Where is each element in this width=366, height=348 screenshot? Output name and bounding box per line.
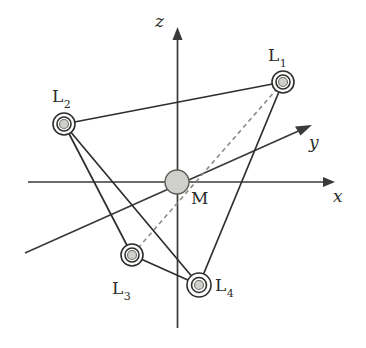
edge-L1-L4 bbox=[199, 82, 283, 285]
edge-L1-M-L3 bbox=[132, 82, 283, 255]
nodes-group bbox=[53, 71, 294, 297]
node-L1[interactable] bbox=[272, 71, 294, 93]
node-label-L1-subscript: 1 bbox=[280, 57, 287, 70]
node-M[interactable] bbox=[165, 170, 189, 194]
node-label-L4-base: L bbox=[215, 275, 226, 295]
node-L1-core bbox=[279, 78, 288, 87]
axis-label-z: z bbox=[155, 13, 164, 30]
node-label-L3-subscript: 3 bbox=[124, 290, 131, 303]
node-L2[interactable] bbox=[53, 113, 75, 135]
edge-L1-L2 bbox=[64, 82, 283, 124]
node-L4[interactable] bbox=[187, 273, 211, 297]
node-L3[interactable] bbox=[121, 244, 143, 266]
axis-label-x: x bbox=[333, 188, 343, 205]
node-L3-core bbox=[128, 251, 137, 260]
node-label-L4-subscript: 4 bbox=[227, 287, 234, 300]
node-label-L3: L3 bbox=[112, 280, 130, 300]
node-label-L1: L1 bbox=[268, 47, 286, 67]
node-L4-core bbox=[195, 281, 204, 290]
axis-label-y: y bbox=[309, 134, 319, 151]
axis-y-line bbox=[25, 129, 303, 253]
node-label-L2-subscript: 2 bbox=[64, 98, 71, 111]
node-label-L4: L4 bbox=[215, 277, 233, 297]
node-label-L3-base: L bbox=[112, 278, 123, 298]
diagram-canvas bbox=[0, 0, 366, 348]
edge-L2-L3 bbox=[64, 124, 132, 255]
node-label-M: M bbox=[191, 190, 208, 207]
physics-diagram-figure: L1 L2 L3 L4 M z x y bbox=[0, 0, 366, 348]
node-label-L2-base: L bbox=[52, 86, 63, 106]
node-M-core bbox=[165, 170, 189, 194]
node-label-L2: L2 bbox=[52, 88, 70, 108]
node-L2-core bbox=[60, 120, 69, 129]
node-label-L1-base: L bbox=[268, 45, 279, 65]
axis-z-arrowhead bbox=[173, 27, 183, 40]
